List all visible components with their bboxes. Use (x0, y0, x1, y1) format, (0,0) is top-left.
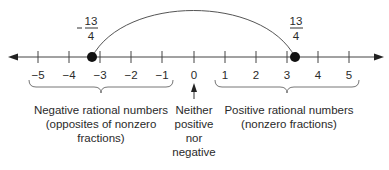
fraction-numerator-pos: 13 (286, 14, 306, 28)
right-arrow-icon (374, 54, 384, 61)
tick-label: −1 (152, 68, 172, 82)
positive-line2: (nonzero fractions) (214, 117, 364, 131)
tick-label: −4 (59, 68, 79, 82)
tick-label: −2 (121, 68, 141, 82)
negative-line2: (opposites of nonzero (26, 117, 176, 131)
point-pos-13-4 (290, 52, 300, 62)
tick-label: 5 (339, 68, 359, 82)
point-neg-13-4 (87, 52, 97, 62)
up-arrow-icon (191, 83, 197, 92)
zero-line2: positive (168, 117, 220, 131)
negative-line1: Negative rational numbers (26, 103, 176, 117)
opposites-arc (92, 11, 295, 58)
tick-label: 0 (184, 68, 204, 82)
negative-line3: fractions) (26, 131, 176, 145)
tick-label: −5 (28, 68, 48, 82)
tick-label: 1 (215, 68, 235, 82)
positive-line1: Positive rational numbers (214, 103, 364, 117)
zero-group-label: Neither positive nor negative (168, 103, 220, 159)
zero-line1: Neither (168, 103, 220, 117)
tick-label: 4 (308, 68, 328, 82)
zero-line4: negative (168, 145, 220, 159)
positive-group-label: Positive rational numbers (nonzero fract… (214, 103, 364, 131)
negative-group-label: Negative rational numbers (opposites of … (26, 103, 176, 145)
tick-label: 2 (246, 68, 266, 82)
tick-label: 3 (277, 68, 297, 82)
zero-line3: nor (168, 131, 220, 145)
tick-label: −3 (90, 68, 110, 82)
left-arrow-icon (8, 54, 18, 61)
fraction-denominator-neg: 4 (81, 29, 101, 43)
fraction-numerator-neg: 13 (81, 14, 101, 28)
fraction-denominator-pos: 4 (286, 29, 306, 43)
